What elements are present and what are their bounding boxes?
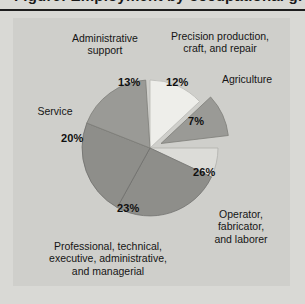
label-precision-production: Precision production, craft, and repair — [157, 30, 283, 55]
value-administrative-support: 13% — [118, 76, 140, 88]
value-agriculture: 7% — [188, 115, 204, 127]
figure-title-text: Figure: Employment by occupational group — [14, 0, 305, 4]
value-operator-fabricator-laborer: 26% — [193, 166, 215, 178]
label-operator-fabricator-laborer: Operator, fabricator, and laborer — [195, 208, 287, 245]
label-administrative-support: Administrative support — [51, 32, 159, 57]
title-rule — [0, 9, 305, 11]
value-precision-production: 12% — [166, 76, 188, 88]
chart-panel: Administrative support Precision product… — [13, 18, 290, 286]
label-professional-technical: Professional, technical, executive, admi… — [18, 240, 198, 277]
value-service: 20% — [61, 132, 83, 144]
figure-container: Figure: Employment by occupational group… — [0, 0, 305, 304]
value-professional-technical: 23% — [117, 202, 139, 214]
figure-title-clipped: Figure: Employment by occupational group — [0, 0, 305, 9]
label-service: Service — [23, 105, 87, 117]
label-agriculture: Agriculture — [207, 73, 287, 85]
